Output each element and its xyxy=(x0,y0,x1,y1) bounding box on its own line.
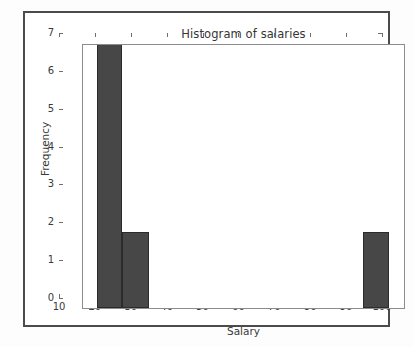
x-tick-mark-top xyxy=(238,33,239,37)
x-tick-mark-top xyxy=(131,33,132,37)
x-tick-mark-top xyxy=(346,33,347,37)
x-tick-mark-top xyxy=(167,33,168,37)
histogram-bar xyxy=(97,45,122,308)
x-tick-mark-top xyxy=(310,33,311,37)
plot-canvas xyxy=(83,45,404,308)
x-tick-label: 10 xyxy=(44,301,74,312)
x-tick-mark-top xyxy=(95,33,96,37)
x-tick-mark xyxy=(59,294,60,298)
x-tick-mark-top xyxy=(274,33,275,37)
histogram-bar xyxy=(363,232,389,308)
x-axis-label: Salary xyxy=(82,325,405,337)
plot-axes-area xyxy=(82,44,405,309)
x-tick-mark-top xyxy=(382,33,383,37)
figure-root: Histogram of salaries Frequency Salary 0… xyxy=(0,0,414,347)
figure-outer-frame: Histogram of salaries Frequency Salary 0… xyxy=(23,11,390,327)
x-tick-mark-top xyxy=(59,33,60,37)
histogram-bar xyxy=(122,232,149,308)
x-tick-mark-top xyxy=(203,33,204,37)
